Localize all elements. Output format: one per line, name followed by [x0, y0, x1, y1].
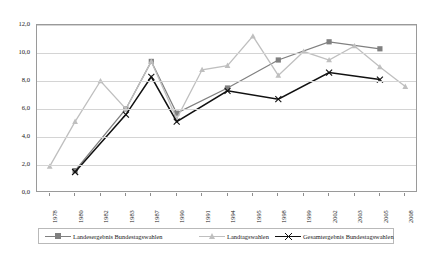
legend-item[interactable]: Landtagswahlen [199, 231, 269, 241]
x-axis-tick-label: 2003 [356, 210, 363, 223]
legend-label: Landtagswahlen [227, 233, 269, 240]
x-axis-tick-label: 2005 [382, 210, 389, 223]
plot-area [36, 24, 417, 192]
gridline [37, 25, 416, 26]
x-axis-tick [354, 193, 355, 196]
y-axis-tick-label: 8,0 [0, 77, 30, 84]
x-axis-tick-label: 1983 [128, 210, 135, 223]
x-axis: 1978198019821983198719901991199419951998… [36, 193, 417, 229]
gridline [37, 53, 416, 54]
x-axis-tick-label: 2008 [407, 210, 414, 223]
legend-label: Landesergebnis Bundestagswahlen [73, 233, 163, 240]
x-axis-tick [74, 193, 75, 196]
gridline [37, 165, 416, 166]
x-axis-tick-label: 1999 [305, 210, 312, 223]
legend-marker-icon [199, 231, 225, 241]
y-axis-tick-label: 12,0 [0, 21, 30, 28]
legend-item[interactable]: Gesamtergebnis Bundestagswahlen [275, 231, 394, 241]
x-axis-tick [303, 193, 304, 196]
gridline [37, 81, 416, 82]
data-point-marker [276, 57, 281, 62]
x-axis-tick [379, 193, 380, 196]
x-axis-tick-label: 1994 [229, 210, 236, 223]
x-axis-tick-label: 1990 [178, 210, 185, 223]
data-point-marker [327, 39, 332, 44]
y-axis-tick-label: 2,0 [0, 161, 30, 168]
legend-marker-icon [45, 231, 71, 241]
data-point-marker [148, 74, 154, 80]
x-axis-tick [125, 193, 126, 196]
x-axis-tick-label: 1991 [204, 210, 211, 223]
x-axis-tick-label: 1982 [102, 210, 109, 223]
series-line [75, 42, 380, 171]
legend-label: Gesamtergebnis Bundestagswahlen [303, 233, 394, 240]
x-axis-tick [328, 193, 329, 196]
y-axis: 0,02,04,06,08,010,012,0 [0, 0, 36, 253]
x-axis-tick [252, 193, 253, 196]
x-axis-tick-label: 1995 [255, 210, 262, 223]
x-axis-tick-label: 1980 [77, 210, 84, 223]
legend-marker-icon [275, 231, 301, 241]
data-point-marker [123, 112, 129, 118]
x-axis-tick [176, 193, 177, 196]
x-axis-tick [49, 193, 50, 196]
x-axis-tick [404, 193, 405, 196]
chart-container: 0,02,04,06,08,010,012,0 1978198019821983… [0, 0, 437, 253]
x-axis-tick [227, 193, 228, 196]
y-axis-tick-label: 0,0 [0, 189, 30, 196]
x-axis-tick-label: 1987 [153, 210, 160, 223]
y-axis-tick-label: 4,0 [0, 133, 30, 140]
data-point-marker [225, 85, 230, 90]
data-point-marker [250, 33, 256, 38]
y-axis-tick-label: 6,0 [0, 105, 30, 112]
y-axis-tick-label: 10,0 [0, 49, 30, 56]
x-axis-tick [100, 193, 101, 196]
x-axis-tick [277, 193, 278, 196]
chart-legend: Landesergebnis BundestagswahlenLandtagsw… [38, 228, 394, 244]
gridline [37, 137, 416, 138]
x-axis-tick [201, 193, 202, 196]
x-axis-tick [150, 193, 151, 196]
legend-item[interactable]: Landesergebnis Bundestagswahlen [45, 231, 163, 241]
x-axis-tick-label: 1998 [280, 210, 287, 223]
x-axis-tick-label: 2002 [331, 210, 338, 223]
x-axis-tick-label: 1978 [51, 210, 58, 223]
gridline [37, 109, 416, 110]
data-point-marker [377, 46, 382, 51]
series-line [50, 36, 406, 166]
